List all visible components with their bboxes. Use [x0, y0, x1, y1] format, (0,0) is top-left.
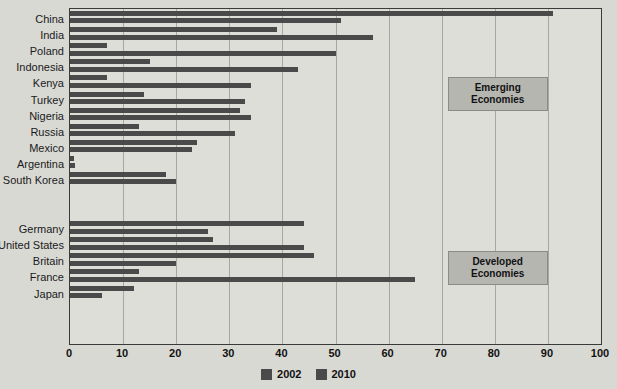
- x-tick-10: 10: [116, 347, 128, 359]
- y-label-indonesia: Indonesia: [16, 62, 64, 73]
- bar-indonesia-2010: [70, 67, 298, 72]
- y-label-united-states: United States: [0, 240, 64, 251]
- x-tick-50: 50: [328, 347, 340, 359]
- bar-poland-2002: [70, 43, 107, 48]
- x-tick-90: 90: [541, 347, 553, 359]
- y-label-britain: Britain: [33, 256, 64, 267]
- annotation-emerging-economies: Emerging Economies: [448, 77, 548, 111]
- annotation-developed-line2: Economies: [471, 268, 524, 281]
- y-label-france: France: [30, 272, 64, 283]
- y-label-germany: Germany: [19, 224, 64, 235]
- legend-label-2010: 2010: [332, 368, 356, 380]
- annotation-developed-line1: Developed: [472, 256, 523, 269]
- bar-france-2002: [70, 269, 139, 274]
- annotation-emerging-line1: Emerging: [475, 82, 521, 95]
- gridline-30: [229, 9, 230, 344]
- y-label-china: China: [35, 14, 64, 25]
- bar-china-2010: [70, 18, 341, 23]
- bar-turkey-2002: [70, 92, 144, 97]
- y-label-russia: Russia: [30, 127, 64, 138]
- x-tick-70: 70: [435, 347, 447, 359]
- plot-area: Emerging Economies Developed Economies: [69, 8, 602, 345]
- bar-argentina-2010: [70, 163, 75, 168]
- legend-item-2010[interactable]: 2010: [316, 368, 356, 380]
- bar-kenya-2002: [70, 75, 107, 80]
- gridline-90: [548, 9, 549, 344]
- x-tick-80: 80: [488, 347, 500, 359]
- bar-poland-2010: [70, 51, 336, 56]
- x-tick-100: 100: [591, 347, 609, 359]
- bar-china-2002: [70, 11, 553, 16]
- y-label-kenya: Kenya: [33, 78, 64, 89]
- y-label-india: India: [40, 30, 64, 41]
- y-label-nigeria: Nigeria: [29, 111, 64, 122]
- gridline-70: [442, 9, 443, 344]
- bar-britain-2010: [70, 261, 176, 266]
- x-tick-30: 30: [222, 347, 234, 359]
- bar-britain-2002: [70, 253, 314, 258]
- y-label-poland: Poland: [30, 46, 64, 57]
- gridline-60: [389, 9, 390, 344]
- legend-swatch-2002: [261, 369, 272, 380]
- y-label-south-korea: South Korea: [3, 175, 64, 186]
- x-axis-ticks: 0102030405060708090100: [69, 347, 602, 365]
- bar-united-states-2010: [70, 245, 304, 250]
- bar-france-2010: [70, 277, 415, 282]
- y-label-mexico: Mexico: [29, 143, 64, 154]
- bar-germany-2002: [70, 221, 304, 226]
- y-label-turkey: Turkey: [31, 95, 64, 106]
- y-label-argentina: Argentina: [17, 159, 64, 170]
- bar-japan-2010: [70, 293, 102, 298]
- bar-turkey-2010: [70, 99, 245, 104]
- gridline-80: [495, 9, 496, 344]
- legend-swatch-2010: [316, 369, 327, 380]
- annotation-developed-economies: Developed Economies: [448, 251, 548, 285]
- legend-label-2002: 2002: [277, 368, 301, 380]
- bar-japan-2002: [70, 286, 134, 291]
- bar-south-korea-2002: [70, 172, 166, 177]
- bar-india-2010: [70, 35, 373, 40]
- legend-item-2002[interactable]: 2002: [261, 368, 301, 380]
- bar-germany-2010: [70, 229, 208, 234]
- gridline-20: [176, 9, 177, 344]
- bar-india-2002: [70, 27, 277, 32]
- bar-kenya-2010: [70, 83, 251, 88]
- bar-mexico-2002: [70, 140, 197, 145]
- bar-nigeria-2002: [70, 108, 240, 113]
- gridline-50: [336, 9, 337, 344]
- bar-mexico-2010: [70, 147, 192, 152]
- y-axis-labels: ChinaIndiaPolandIndonesiaKenyaTurkeyNige…: [0, 8, 64, 345]
- bar-nigeria-2010: [70, 115, 251, 120]
- bar-russia-2002: [70, 124, 139, 129]
- annotation-emerging-line2: Economies: [471, 94, 524, 107]
- gridline-40: [282, 9, 283, 344]
- x-tick-20: 20: [169, 347, 181, 359]
- bar-argentina-2002: [70, 156, 74, 161]
- bar-south-korea-2010: [70, 179, 176, 184]
- x-tick-40: 40: [275, 347, 287, 359]
- chart-screenshot: Emerging Economies Developed Economies C…: [0, 0, 617, 389]
- x-tick-60: 60: [381, 347, 393, 359]
- bar-indonesia-2002: [70, 59, 150, 64]
- bar-united-states-2002: [70, 237, 213, 242]
- chart-legend: 20022010: [0, 368, 617, 380]
- y-label-japan: Japan: [34, 289, 64, 300]
- x-tick-0: 0: [66, 347, 72, 359]
- bar-russia-2010: [70, 131, 235, 136]
